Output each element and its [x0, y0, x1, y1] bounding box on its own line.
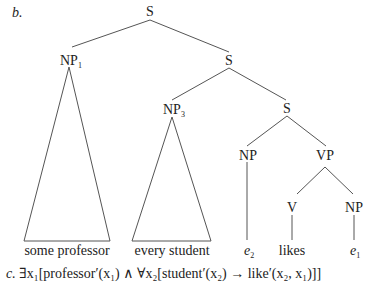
node-np3-index: 3	[181, 110, 185, 119]
node-np1-index: 1	[78, 61, 82, 70]
node-s2: S	[225, 53, 233, 68]
edge-s2-s3	[229, 68, 286, 100]
edge-s3-np	[247, 116, 287, 146]
edge-s-s2	[150, 20, 229, 52]
edge-vp-np	[325, 167, 353, 194]
triangle-np1	[24, 67, 110, 241]
leaf-e1: e1	[350, 243, 360, 260]
triangle-np3	[132, 117, 211, 241]
node-s-root: S	[146, 4, 154, 19]
example-label-b: b.	[12, 5, 23, 20]
leaf-every-student: every student	[134, 243, 209, 258]
edge-s-np1	[72, 20, 150, 47]
edge-s2-np3	[172, 68, 229, 100]
node-np3-label: NP	[163, 102, 181, 117]
node-np-obj: NP	[345, 200, 363, 215]
example-label-c: c.	[6, 266, 16, 281]
leaf-e2-index: 2	[250, 251, 254, 260]
node-s3: S	[283, 101, 291, 116]
node-np1: NP1	[60, 53, 82, 70]
edge-s3-vp	[287, 116, 326, 146]
node-np1-label: NP	[60, 53, 78, 68]
edge-vp-v	[297, 167, 325, 194]
node-vp: VP	[316, 148, 334, 163]
leaf-likes: likes	[279, 243, 305, 258]
leaf-e2: e2	[244, 243, 254, 260]
node-np-trace: NP	[239, 148, 257, 163]
formula-text: ∃x₁[professor′(x₁) ∧ ∀x₂[student′(x₂) → …	[19, 266, 321, 281]
node-np3: NP3	[163, 102, 185, 119]
leaf-some-professor: some professor	[24, 243, 109, 258]
syntax-tree: b. S NP1 S NP3 S NP VP V NP some profess…	[0, 0, 371, 287]
leaf-e1-index: 1	[356, 251, 360, 260]
node-v: V	[287, 200, 297, 215]
logical-form: c. ∃x₁[professor′(x₁) ∧ ∀x₂[student′(x₂)…	[6, 265, 321, 282]
